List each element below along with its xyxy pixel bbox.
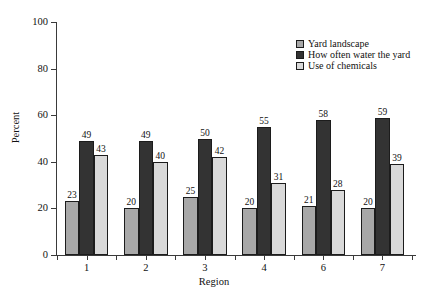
- bar: [271, 183, 286, 255]
- bar-value-label: 59: [369, 107, 395, 117]
- y-axis-tick-label: 0: [0, 250, 48, 260]
- y-axis-tick-label: 100: [0, 17, 48, 27]
- y-axis-tick: [51, 22, 56, 23]
- bar: [257, 127, 272, 255]
- bar-value-label: 55: [251, 116, 277, 126]
- y-axis-tick-label: 60: [0, 110, 48, 120]
- legend-label: Use of chemicals: [308, 61, 377, 71]
- x-axis-boundary-tick: [57, 256, 58, 260]
- y-axis-tick: [51, 208, 56, 209]
- legend-label: How often water the yard: [308, 50, 410, 60]
- legend-swatch: [296, 51, 304, 59]
- x-axis-tick-label: 4: [249, 262, 279, 273]
- y-axis-tick: [51, 255, 56, 256]
- bar: [65, 201, 80, 255]
- legend-item: How often water the yard: [296, 50, 410, 60]
- bar: [331, 190, 346, 255]
- y-axis-tick: [51, 115, 56, 116]
- x-axis-boundary-tick: [294, 256, 295, 260]
- bar: [124, 208, 139, 255]
- bar: [79, 141, 94, 255]
- legend: Yard landscapeHow often water the yardUs…: [296, 39, 410, 72]
- bar: [183, 197, 198, 255]
- bar: [361, 208, 376, 255]
- x-axis-tick: [382, 256, 383, 260]
- x-axis-tick: [146, 256, 147, 260]
- x-axis-tick-label: 6: [308, 262, 338, 273]
- bar-value-label: 50: [192, 128, 218, 138]
- legend-swatch: [296, 40, 304, 48]
- x-axis-boundary-tick: [175, 256, 176, 260]
- y-axis-tick: [51, 162, 56, 163]
- x-axis-boundary-tick: [353, 256, 354, 260]
- x-axis-line: [56, 255, 416, 256]
- x-axis-tick: [323, 256, 324, 260]
- y-axis-title: Percent: [10, 83, 21, 173]
- x-axis-title: Region: [0, 276, 428, 287]
- x-axis-boundary-tick: [412, 256, 413, 260]
- legend-label: Yard landscape: [308, 39, 369, 49]
- bar-value-label: 39: [384, 153, 410, 163]
- bar-value-label: 40: [147, 151, 173, 161]
- legend-item: Use of chemicals: [296, 61, 410, 71]
- x-axis-boundary-tick: [235, 256, 236, 260]
- y-axis-tick: [51, 69, 56, 70]
- legend-item: Yard landscape: [296, 39, 410, 49]
- bar-value-label: 42: [206, 146, 232, 156]
- x-axis-tick: [87, 256, 88, 260]
- bar-value-label: 58: [310, 109, 336, 119]
- x-axis-tick-label: 2: [131, 262, 161, 273]
- bar: [94, 155, 109, 255]
- bar-value-label: 43: [88, 144, 114, 154]
- x-axis-tick-label: 7: [367, 262, 397, 273]
- x-axis-tick: [205, 256, 206, 260]
- y-axis-tick-label: 40: [0, 157, 48, 167]
- bar-chart: 020406080100 Percent 2349432049402550422…: [0, 0, 428, 297]
- y-axis-tick-label: 80: [0, 64, 48, 74]
- bar-value-label: 28: [325, 179, 351, 189]
- bar-value-label: 49: [74, 130, 100, 140]
- bar: [153, 162, 168, 255]
- bar: [212, 157, 227, 255]
- bar-value-label: 31: [266, 172, 292, 182]
- bar: [242, 208, 257, 255]
- x-axis-tick-label: 1: [72, 262, 102, 273]
- x-axis-tick-label: 3: [190, 262, 220, 273]
- x-axis-boundary-tick: [116, 256, 117, 260]
- bar: [302, 206, 317, 255]
- bar: [375, 118, 390, 255]
- y-axis-tick-label: 20: [0, 203, 48, 213]
- bar-value-label: 49: [133, 130, 159, 140]
- x-axis-tick: [264, 256, 265, 260]
- legend-swatch: [296, 62, 304, 70]
- bar: [390, 164, 405, 255]
